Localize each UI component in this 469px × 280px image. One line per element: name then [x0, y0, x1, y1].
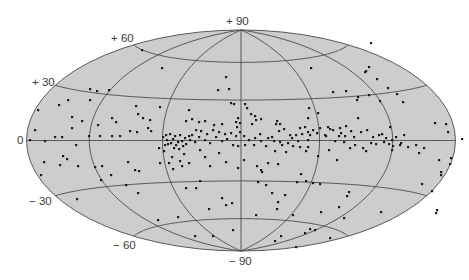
- data-point: [304, 232, 306, 234]
- data-point: [37, 109, 39, 111]
- data-point: [332, 129, 334, 131]
- data-point: [94, 166, 96, 168]
- data-point: [195, 129, 197, 131]
- data-point: [438, 159, 440, 161]
- data-point: [188, 162, 190, 164]
- data-point: [329, 128, 331, 130]
- data-point: [125, 184, 127, 186]
- data-point: [248, 139, 250, 141]
- data-point: [277, 201, 279, 203]
- data-point: [182, 145, 184, 147]
- data-point: [225, 204, 227, 206]
- data-point: [435, 212, 437, 214]
- data-point: [319, 183, 321, 185]
- data-point: [137, 192, 139, 194]
- data-point: [147, 127, 149, 129]
- data-point: [271, 192, 273, 194]
- data-point: [348, 191, 350, 193]
- data-point: [299, 146, 301, 148]
- data-point: [301, 133, 303, 135]
- data-point: [436, 209, 438, 211]
- data-point: [226, 138, 228, 140]
- data-point: [195, 187, 197, 189]
- data-point: [134, 169, 136, 171]
- data-point: [344, 135, 346, 137]
- data-point: [299, 127, 301, 129]
- data-point: [175, 144, 177, 146]
- data-point: [43, 161, 45, 163]
- data-point: [307, 139, 309, 141]
- data-point: [29, 139, 31, 141]
- data-point: [281, 144, 283, 146]
- data-point: [218, 152, 220, 154]
- data-point: [164, 144, 166, 146]
- data-point: [257, 181, 259, 183]
- data-point: [274, 240, 276, 242]
- data-point: [159, 162, 161, 164]
- data-point: [271, 136, 273, 138]
- data-point: [366, 129, 368, 131]
- data-point: [168, 162, 170, 164]
- data-point: [391, 149, 393, 151]
- data-point: [230, 102, 232, 104]
- data-point: [88, 135, 90, 137]
- data-point: [267, 137, 269, 139]
- data-point: [260, 169, 262, 171]
- data-point: [317, 155, 319, 157]
- data-point: [230, 132, 232, 134]
- data-point: [277, 163, 279, 165]
- latitude-label-plus-90: + 90: [226, 16, 249, 28]
- data-point: [136, 131, 138, 133]
- data-point: [198, 136, 200, 138]
- data-point: [332, 91, 334, 93]
- data-point: [221, 197, 223, 199]
- data-point: [157, 219, 159, 221]
- data-point: [244, 144, 246, 146]
- data-point: [209, 165, 211, 167]
- data-point: [274, 150, 276, 152]
- data-point: [161, 67, 163, 69]
- data-point: [339, 127, 341, 129]
- data-point: [204, 156, 206, 158]
- data-point: [158, 147, 160, 149]
- data-point: [237, 117, 239, 119]
- data-point: [376, 78, 378, 80]
- data-point: [292, 145, 294, 147]
- data-point: [275, 123, 277, 125]
- data-point: [461, 138, 463, 140]
- data-point: [89, 88, 91, 90]
- data-point: [179, 160, 181, 162]
- data-point: [44, 140, 46, 142]
- data-point: [285, 151, 287, 153]
- data-point: [396, 93, 398, 95]
- data-point: [391, 139, 393, 141]
- data-point: [378, 134, 380, 136]
- data-point: [440, 174, 442, 176]
- data-point: [215, 136, 217, 138]
- data-point: [200, 130, 202, 132]
- data-point: [209, 142, 211, 144]
- data-point: [370, 42, 372, 44]
- data-point: [221, 140, 223, 142]
- data-point: [423, 147, 425, 149]
- data-point: [212, 129, 214, 131]
- data-point: [260, 118, 262, 120]
- data-point: [184, 137, 186, 139]
- data-point: [237, 145, 239, 147]
- data-point: [170, 142, 172, 144]
- data-point: [188, 135, 190, 137]
- data-point: [319, 127, 321, 129]
- latitude-label-minus-60: − 60: [113, 240, 136, 252]
- data-point: [174, 135, 176, 137]
- data-point: [336, 159, 338, 161]
- data-point: [305, 180, 307, 182]
- data-point: [399, 144, 401, 146]
- data-point: [320, 211, 322, 213]
- data-point: [389, 126, 391, 128]
- data-point: [97, 124, 99, 126]
- data-point: [300, 173, 302, 175]
- data-point: [189, 139, 191, 141]
- data-point: [357, 117, 359, 119]
- data-point: [305, 150, 307, 152]
- data-point: [191, 134, 193, 136]
